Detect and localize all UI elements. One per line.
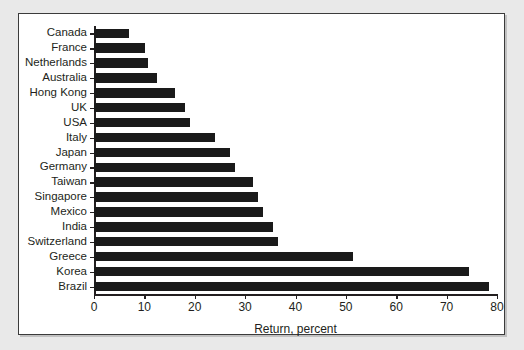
category-label: Australia	[42, 72, 87, 84]
bar-row: Germany	[94, 160, 497, 175]
x-axis-tick	[245, 294, 246, 299]
bar	[94, 118, 190, 127]
bar	[94, 58, 148, 67]
bar-row: Japan	[94, 145, 497, 160]
category-label: Germany	[40, 162, 87, 174]
x-axis-title: Return, percent	[94, 322, 497, 336]
category-label: Switzerland	[28, 236, 87, 248]
x-axis-tick	[346, 294, 347, 299]
bar-row: Switzerland	[94, 234, 497, 249]
category-label: Mexico	[51, 206, 87, 218]
category-label: France	[51, 43, 87, 55]
x-axis-tick-label: 0	[91, 301, 98, 313]
bar-row: Hong Kong	[94, 86, 497, 101]
bar	[94, 282, 489, 291]
bar	[94, 207, 263, 216]
x-axis-tick	[497, 294, 498, 299]
x-axis-tick-label: 50	[339, 301, 352, 313]
bar-row: UK	[94, 100, 497, 115]
bar	[94, 177, 253, 186]
bar-row: Taiwan	[94, 175, 497, 190]
bar	[94, 88, 175, 97]
category-label: USA	[63, 117, 87, 129]
chart-panel: CanadaFranceNetherlandsAustraliaHong Kon…	[18, 13, 505, 335]
bar	[94, 43, 145, 52]
category-label: Canada	[47, 28, 87, 40]
x-axis-tick	[144, 294, 145, 299]
x-axis-tick-label: 10	[138, 301, 151, 313]
plot-area: CanadaFranceNetherlandsAustraliaHong Kon…	[94, 26, 497, 294]
category-label: Italy	[66, 132, 87, 144]
bar	[94, 267, 469, 276]
category-label: Singapore	[35, 191, 87, 203]
x-axis-tick	[296, 294, 297, 299]
bar	[94, 29, 129, 38]
x-axis-tick-label: 20	[188, 301, 201, 313]
bar	[94, 103, 185, 112]
x-axis-tick	[94, 294, 95, 299]
bar-row: France	[94, 41, 497, 56]
bar-row: India	[94, 220, 497, 235]
category-label: Netherlands	[25, 57, 87, 69]
category-label: Hong Kong	[29, 87, 87, 99]
bar-row: Netherlands	[94, 56, 497, 71]
x-axis-tick-label: 60	[390, 301, 403, 313]
bar	[94, 237, 278, 246]
bar	[94, 163, 235, 172]
bar-row: USA	[94, 115, 497, 130]
bar-row: Canada	[94, 26, 497, 41]
category-label: Japan	[56, 147, 87, 159]
category-label: India	[62, 221, 87, 233]
bar-row: Korea	[94, 264, 497, 279]
x-axis-tick	[447, 294, 448, 299]
bar	[94, 133, 215, 142]
bar-row: Brazil	[94, 279, 497, 294]
x-axis-tick-label: 30	[238, 301, 251, 313]
bar-row: Greece	[94, 249, 497, 264]
bar-row: Australia	[94, 71, 497, 86]
category-label: Korea	[56, 266, 87, 278]
bar	[94, 73, 157, 82]
figure-root: CanadaFranceNetherlandsAustraliaHong Kon…	[0, 0, 524, 350]
bar	[94, 148, 230, 157]
bar	[94, 222, 273, 231]
category-label: UK	[71, 102, 87, 114]
category-label: Taiwan	[51, 177, 87, 189]
bar-row: Mexico	[94, 205, 497, 220]
category-label: Brazil	[58, 281, 87, 293]
category-label: Greece	[49, 251, 87, 263]
bar-row: Singapore	[94, 190, 497, 205]
bar	[94, 192, 258, 201]
x-axis-tick	[195, 294, 196, 299]
x-axis-tick-label: 70	[440, 301, 453, 313]
x-axis-tick-label: 80	[490, 301, 503, 313]
x-axis-tick	[396, 294, 397, 299]
x-axis-tick-label: 40	[289, 301, 302, 313]
bar-row: Italy	[94, 130, 497, 145]
bar	[94, 252, 353, 261]
